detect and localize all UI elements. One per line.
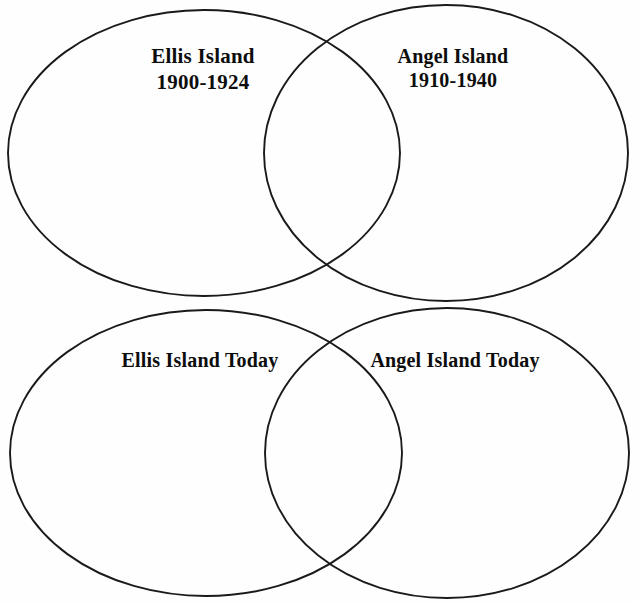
venn-label-line-1: Ellis Island <box>151 44 254 70</box>
venn-label-line-1: Angel Island <box>398 44 509 68</box>
top-venn-group <box>8 5 628 301</box>
venn-diagram-canvas <box>0 0 638 603</box>
venn-label-ellis-island-historical: Ellis Island 1900-1924 <box>151 44 254 95</box>
venn-label-angel-island-today: Angel Island Today <box>370 348 539 372</box>
venn-label-ellis-island-today: Ellis Island Today <box>121 348 278 372</box>
venn-label-line-2: 1910-1940 <box>398 68 509 92</box>
venn-label-line-2: 1900-1924 <box>151 70 254 96</box>
venn-diagram-worksheet: Ellis Island 1900-1924 Angel Island 1910… <box>0 0 638 603</box>
venn-label-line-1: Ellis Island Today <box>121 348 278 372</box>
venn-label-line-1: Angel Island Today <box>370 348 539 372</box>
venn-label-angel-island-historical: Angel Island 1910-1940 <box>398 44 509 93</box>
